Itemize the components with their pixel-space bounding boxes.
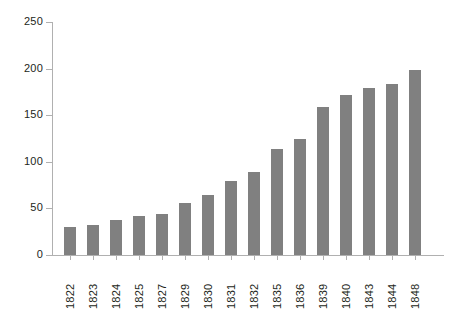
y-tick-0 — [46, 255, 52, 256]
bar-1831 — [225, 181, 237, 255]
x-tick-label-1822: 1822 — [64, 263, 78, 309]
x-tick-label-1840: 1840 — [340, 263, 354, 309]
x-tick-1848 — [415, 255, 416, 260]
bar-slot — [196, 22, 219, 255]
x-tick-1839 — [323, 255, 324, 260]
bar-slot — [127, 22, 150, 255]
x-tick-label-1836: 1836 — [294, 263, 308, 309]
bar-1825 — [133, 216, 145, 255]
bar-chart: 050100150200250 182218231824182518271829… — [0, 0, 452, 312]
y-tick-label-150: 150 — [0, 109, 43, 120]
x-tick-label-1843: 1843 — [363, 263, 377, 309]
bar-1843 — [363, 88, 375, 255]
x-tick-label-wrap: 1844 — [381, 263, 404, 309]
x-tick-label-wrap: 1839 — [312, 263, 335, 309]
x-tick-label-1830: 1830 — [202, 263, 216, 309]
x-tick-label-1824: 1824 — [110, 263, 124, 309]
y-tick-label-100: 100 — [0, 156, 43, 167]
x-tick-label-1825: 1825 — [133, 263, 147, 309]
x-tick-1823 — [93, 255, 94, 260]
x-tick-1844 — [392, 255, 393, 260]
bar-1835 — [271, 149, 283, 255]
bar-1823 — [87, 225, 99, 255]
bar-slot — [150, 22, 173, 255]
x-tick-1824 — [116, 255, 117, 260]
bar-1844 — [386, 84, 398, 255]
bar-1832 — [248, 172, 260, 255]
bar-1827 — [156, 214, 168, 255]
x-tick-label-1835: 1835 — [271, 263, 285, 309]
y-tick-label-50: 50 — [0, 202, 43, 213]
x-tick-label-1827: 1827 — [156, 263, 170, 309]
bar-1836 — [294, 139, 306, 255]
x-tick-label-wrap: 1827 — [151, 263, 174, 309]
x-tick-label-wrap: 1832 — [243, 263, 266, 309]
bar-slot — [312, 22, 335, 255]
bar-1830 — [202, 195, 214, 255]
y-tick-label-200: 200 — [0, 63, 43, 74]
x-tick-label-wrap: 1831 — [220, 263, 243, 309]
bar-1839 — [317, 107, 329, 255]
bar-slot — [335, 22, 358, 255]
x-tick-1840 — [346, 255, 347, 260]
x-tick-1832 — [254, 255, 255, 260]
bar-slot — [266, 22, 289, 255]
bar-1822 — [64, 227, 76, 255]
bar-slot — [81, 22, 104, 255]
x-tick-label-wrap: 1822 — [59, 263, 82, 309]
x-tick-1830 — [208, 255, 209, 260]
x-tick-label-wrap: 1824 — [105, 263, 128, 309]
x-tick-label-wrap: 1830 — [197, 263, 220, 309]
x-tick-label-1844: 1844 — [386, 263, 400, 309]
bar-1824 — [110, 220, 122, 255]
x-axis-line — [52, 255, 444, 256]
x-tick-label-1831: 1831 — [225, 263, 239, 309]
x-tick-1822 — [70, 255, 71, 260]
bar-slot — [289, 22, 312, 255]
bar-slot — [242, 22, 265, 255]
bar-slot — [381, 22, 404, 255]
x-tick-1835 — [277, 255, 278, 260]
x-tick-label-wrap: 1836 — [289, 263, 312, 309]
x-tick-label-wrap: 1825 — [128, 263, 151, 309]
bar-slot — [173, 22, 196, 255]
bar-slot — [58, 22, 81, 255]
x-tick-1829 — [185, 255, 186, 260]
bar-slot — [404, 22, 427, 255]
x-tick-1831 — [231, 255, 232, 260]
y-tick-label-250: 250 — [0, 16, 43, 27]
x-tick-label-1823: 1823 — [87, 263, 101, 309]
x-tick-label-wrap: 1829 — [174, 263, 197, 309]
bar-slot — [219, 22, 242, 255]
x-tick-label-1839: 1839 — [317, 263, 331, 309]
y-tick-label-0: 0 — [0, 249, 43, 260]
bar-1829 — [179, 203, 191, 255]
x-tick-1825 — [139, 255, 140, 260]
x-tick-label-1832: 1832 — [248, 263, 262, 309]
x-tick-label-wrap: 1840 — [335, 263, 358, 309]
x-tick-1836 — [300, 255, 301, 260]
bar-slot — [358, 22, 381, 255]
bar-slot — [104, 22, 127, 255]
x-tick-label-wrap: 1823 — [82, 263, 105, 309]
bar-series — [52, 22, 444, 255]
bar-1840 — [340, 95, 352, 255]
x-tick-label-wrap: 1835 — [266, 263, 289, 309]
x-tick-label-1848: 1848 — [409, 263, 423, 309]
x-tick-label-1829: 1829 — [179, 263, 193, 309]
x-tick-1843 — [369, 255, 370, 260]
bar-1848 — [409, 70, 421, 255]
x-tick-label-wrap: 1848 — [404, 263, 427, 309]
x-tick-label-wrap: 1843 — [358, 263, 381, 309]
x-tick-1827 — [162, 255, 163, 260]
